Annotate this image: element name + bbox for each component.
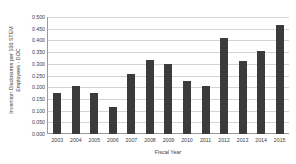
chart-screenshot: Invention Disclosures per 100 STEM Emplo… <box>0 0 296 164</box>
x-axis-tick-label: 2008 <box>141 137 160 147</box>
y-axis-tick-label: 0.500 <box>25 14 45 20</box>
y-axis-tick-label: 0.300 <box>25 61 45 67</box>
y-axis-tick-label: 0.050 <box>25 119 45 125</box>
x-axis-tick-labels: 2003200420052006200720082009201020112012… <box>48 137 289 147</box>
bar-slot <box>270 17 289 134</box>
bar-slot <box>48 17 67 134</box>
y-axis-tick-label: 0.400 <box>25 37 45 43</box>
bar-slot <box>215 17 234 134</box>
bar-slot <box>104 17 123 134</box>
x-axis-tick-label: 2009 <box>159 137 178 147</box>
y-axis-title-line-1: Invention Disclosures per 100 STEM <box>8 26 15 114</box>
y-axis-tick-label: 0.200 <box>25 84 45 90</box>
y-axis-title-line-2: Employees - DOC <box>15 26 22 114</box>
y-axis-tick-label: 0.150 <box>25 96 45 102</box>
x-axis-tick-label: 2012 <box>215 137 234 147</box>
bar-slot <box>159 17 178 134</box>
bar-slot <box>233 17 252 134</box>
y-axis-tick-label: 0.450 <box>25 26 45 32</box>
x-axis-tick-label: 2007 <box>122 137 141 147</box>
bar-slot <box>252 17 271 134</box>
bar-2011 <box>202 86 210 134</box>
bar-2010 <box>183 81 191 134</box>
x-axis-tick-label: 2006 <box>104 137 123 147</box>
bar-2003 <box>53 93 61 134</box>
x-axis-title: Fiscal Year <box>47 149 289 155</box>
bar-slot <box>141 17 160 134</box>
x-axis-tick-label: 2005 <box>85 137 104 147</box>
x-axis-tick-label: 2015 <box>270 137 289 147</box>
bar-2004 <box>72 86 80 134</box>
bar-2007 <box>127 74 135 134</box>
x-axis-tick-label: 2003 <box>48 137 67 147</box>
bar-2015 <box>276 25 284 134</box>
bar-slot <box>122 17 141 134</box>
y-axis-tick-labels: 0.5000.4500.4000.3500.3000.2500.2000.150… <box>22 17 45 134</box>
y-axis-tick-label: 0.250 <box>25 73 45 79</box>
x-axis-tick-label: 2013 <box>233 137 252 147</box>
bar-2006 <box>109 107 117 134</box>
x-axis-tick-label: 2011 <box>196 137 215 147</box>
bar-slot <box>178 17 197 134</box>
bar-2008 <box>146 60 154 134</box>
y-axis-tick-label: 0.000 <box>25 131 45 137</box>
bar-2005 <box>90 93 98 134</box>
x-axis-tick-label: 2014 <box>252 137 271 147</box>
bar-2009 <box>164 64 172 134</box>
bar-2013 <box>239 61 247 134</box>
y-axis-tick-label: 0.350 <box>25 49 45 55</box>
x-axis-tick-label: 2004 <box>67 137 86 147</box>
y-axis-tick-label: 0.100 <box>25 108 45 114</box>
x-axis-tick-label: 2010 <box>178 137 197 147</box>
bar-slot <box>67 17 86 134</box>
bar-2012 <box>220 38 228 134</box>
bar-slot <box>85 17 104 134</box>
bar-series <box>48 17 289 134</box>
bar-2014 <box>257 51 265 134</box>
bar-slot <box>196 17 215 134</box>
